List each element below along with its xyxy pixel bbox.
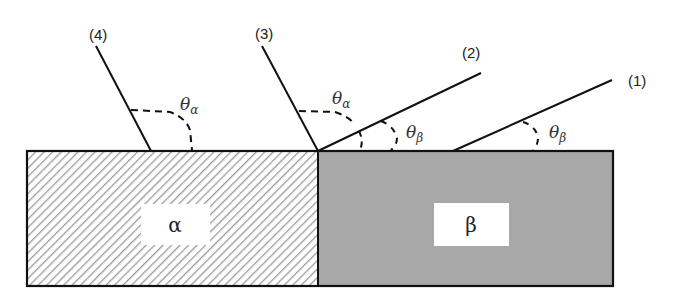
svg-text:θβ: θβ (549, 122, 566, 145)
beta-label: β (465, 213, 477, 237)
svg-text:θα: θα (332, 88, 350, 111)
contact-angle-diagram: α β (4) θα (3) θα (2) θβ (1) θβ (0, 0, 675, 301)
beta-label-box: β (434, 203, 509, 246)
line-4-label: (4) (89, 26, 107, 43)
line-1: (1) θβ (453, 72, 646, 151)
theta-beta-2: θ (406, 122, 416, 142)
theta-alpha-4: θ (180, 94, 190, 114)
theta-beta-1: θ (549, 122, 559, 142)
line-2-label: (2) (462, 44, 480, 61)
line-3: (3) θα (255, 25, 354, 151)
theta-beta-2-sub: β (415, 131, 423, 145)
line-4: (4) θα (89, 26, 198, 151)
alpha-label-box: α (141, 204, 210, 245)
line-3-label: (3) (255, 25, 273, 42)
svg-text:θα: θα (180, 94, 198, 117)
theta-beta-1-sub: β (558, 131, 566, 145)
theta-alpha-3: θ (332, 88, 342, 108)
theta-alpha-3-sub: α (342, 97, 350, 111)
alpha-label: α (168, 213, 182, 237)
theta-alpha-4-sub: α (190, 103, 198, 117)
line-1-label: (1) (628, 72, 646, 89)
svg-text:θβ: θβ (406, 122, 423, 145)
